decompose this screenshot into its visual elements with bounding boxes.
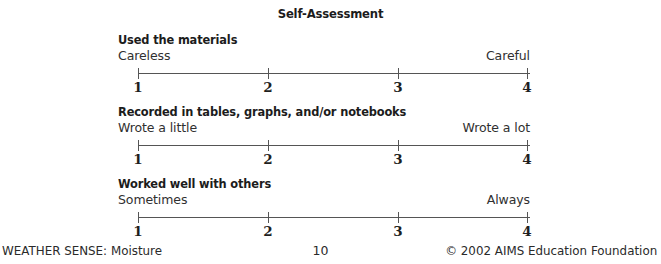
tick-label-1[interactable]: 1 xyxy=(133,224,142,239)
self-assessment-item: Used the materials Careless Careful 1 2 … xyxy=(118,33,530,97)
anchor-label-low: Careless xyxy=(118,48,170,63)
anchor-row: Sometimes Always xyxy=(118,192,530,209)
anchor-label-low: Wrote a little xyxy=(118,120,197,135)
tick-label-2[interactable]: 2 xyxy=(263,80,272,95)
axis-tick-2[interactable] xyxy=(268,140,269,151)
rating-scale-axis[interactable] xyxy=(138,68,530,80)
anchor-label-high: Always xyxy=(487,192,530,207)
tick-label-1[interactable]: 1 xyxy=(133,80,142,95)
axis-tick-2[interactable] xyxy=(268,212,269,223)
tick-label-4[interactable]: 4 xyxy=(522,80,531,95)
worksheet-page: Self-Assessment Used the materials Carel… xyxy=(0,0,661,264)
tick-label-3[interactable]: 3 xyxy=(393,224,402,239)
page-title: Self-Assessment xyxy=(23,6,638,21)
axis-tick-4[interactable] xyxy=(527,212,528,223)
axis-tick-labels: 1 2 3 4 xyxy=(138,80,530,97)
rating-scale-axis[interactable] xyxy=(138,212,530,224)
axis-tick-3[interactable] xyxy=(398,68,399,79)
item-heading: Used the materials xyxy=(118,33,509,47)
tick-label-1[interactable]: 1 xyxy=(133,152,142,167)
axis-line xyxy=(138,217,530,218)
anchor-row: Careless Careful xyxy=(118,48,530,65)
axis-tick-labels: 1 2 3 4 xyxy=(138,152,530,169)
axis-tick-3[interactable] xyxy=(398,212,399,223)
axis-tick-1[interactable] xyxy=(138,212,139,223)
axis-tick-labels: 1 2 3 4 xyxy=(138,224,530,241)
axis-tick-2[interactable] xyxy=(268,68,269,79)
tick-label-2[interactable]: 2 xyxy=(263,224,272,239)
anchor-label-high: Careful xyxy=(486,48,530,63)
self-assessment-item: Recorded in tables, graphs, and/or noteb… xyxy=(118,105,530,169)
axis-tick-4[interactable] xyxy=(527,140,528,151)
axis-tick-1[interactable] xyxy=(138,140,139,151)
tick-label-3[interactable]: 3 xyxy=(393,80,402,95)
self-assessment-item: Worked well with others Sometimes Always… xyxy=(118,177,530,241)
axis-tick-3[interactable] xyxy=(398,140,399,151)
axis-line xyxy=(138,145,530,146)
tick-label-4[interactable]: 4 xyxy=(522,224,531,239)
tick-label-3[interactable]: 3 xyxy=(393,152,402,167)
anchor-label-high: Wrote a lot xyxy=(463,120,530,135)
footer-copyright: © 2002 AIMS Education Foundation xyxy=(445,243,657,259)
axis-tick-4[interactable] xyxy=(527,68,528,79)
tick-label-4[interactable]: 4 xyxy=(522,152,531,167)
axis-line xyxy=(138,73,530,74)
anchor-row: Wrote a little Wrote a lot xyxy=(118,120,530,137)
rating-scale-axis[interactable] xyxy=(138,140,530,152)
item-heading: Worked well with others xyxy=(118,177,509,191)
page-footer: WEATHER SENSE: Moisture 10 © 2002 AIMS E… xyxy=(0,243,661,263)
anchor-label-low: Sometimes xyxy=(118,192,187,207)
item-heading: Recorded in tables, graphs, and/or noteb… xyxy=(118,105,509,119)
tick-label-2[interactable]: 2 xyxy=(263,152,272,167)
axis-tick-1[interactable] xyxy=(138,68,139,79)
